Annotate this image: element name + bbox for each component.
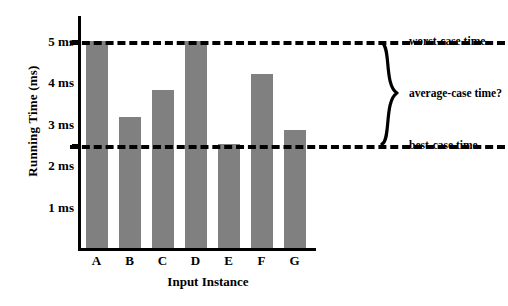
x-tick-label-G: G (278, 253, 311, 269)
x-axis-title: Input Instance (118, 274, 298, 290)
bar-B (119, 117, 141, 248)
best-case-label: best-case time (409, 139, 478, 151)
average-case-label: average-case time? (409, 87, 502, 99)
bar-C (152, 90, 174, 248)
x-tick-label-E: E (212, 253, 245, 269)
average-case-brace-icon (380, 41, 402, 146)
worst-case-label: worst-case time (409, 35, 485, 47)
bar-F (251, 74, 273, 248)
x-tick-label-A: A (80, 253, 113, 269)
x-tick-label-F: F (245, 253, 278, 269)
x-tick-label-C: C (146, 253, 179, 269)
running-time-bar-chart: Running Time (ms) 5 ms 4 ms 3 ms 2 ms 1 … (0, 0, 508, 306)
bar-E (218, 144, 240, 248)
x-tick-label-B: B (113, 253, 146, 269)
x-tick-label-D: D (179, 253, 212, 269)
